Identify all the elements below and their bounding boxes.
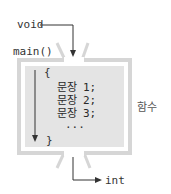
open-brace: { — [44, 67, 51, 78]
function-side-label: 함수 — [137, 102, 157, 113]
function-name-label: main() — [13, 46, 53, 57]
statement-line: 문장1; — [57, 82, 96, 93]
ellipsis: ... — [65, 119, 85, 130]
output-arrowhead-icon — [95, 177, 102, 183]
statement-number: 3; — [83, 107, 96, 120]
statement-number: 1; — [83, 81, 96, 94]
statement-number: 2; — [83, 94, 96, 107]
output-arrow — [73, 157, 96, 180]
input-arrowhead-icon — [70, 50, 76, 57]
output-type-label: int — [105, 175, 125, 186]
statement-keyword: 문장 — [57, 82, 83, 93]
statement-keyword: 문장 — [57, 95, 83, 106]
statement-line: 문장2; — [57, 95, 96, 106]
input-type-label: void — [17, 19, 44, 30]
close-brace: } — [46, 135, 53, 146]
